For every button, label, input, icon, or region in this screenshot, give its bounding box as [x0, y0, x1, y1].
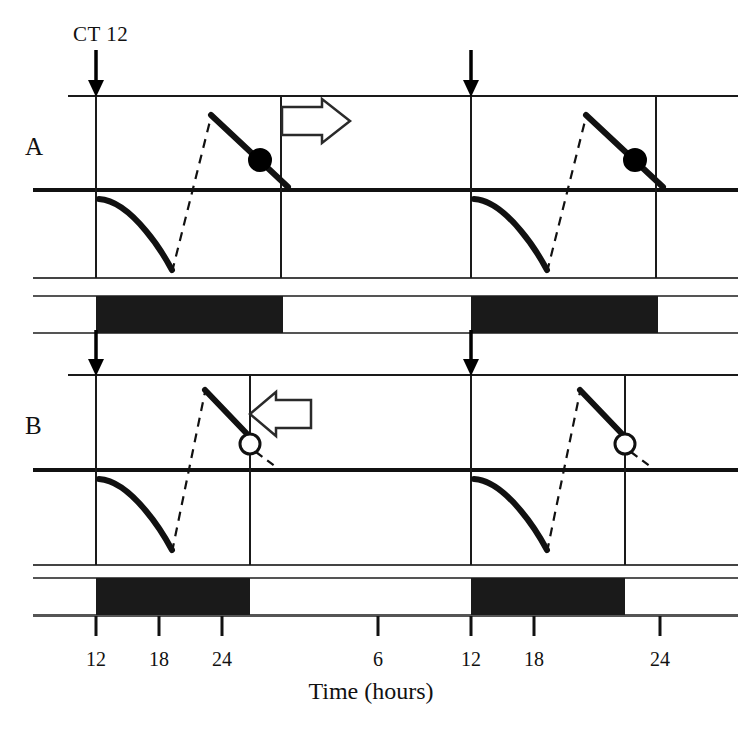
phase-advance-arrow-icon	[250, 392, 311, 436]
panel-a-rise-dashed-1	[172, 117, 211, 272]
pulse-arrow-a1	[88, 50, 104, 97]
pulse-arrow-b2	[463, 330, 479, 376]
panel-b-phase-marker-1	[240, 434, 260, 454]
panel-a-dark-span-2	[471, 296, 658, 333]
panel-a-phase-marker-2	[624, 149, 646, 171]
panel-b-fall-dashed-2	[631, 452, 655, 470]
phase-delay-arrow-icon	[282, 99, 350, 143]
x-axis-ticks	[96, 616, 660, 636]
panel-a-light-dark-bar	[33, 296, 738, 333]
x-axis	[33, 616, 738, 636]
circadian-phase-shift-figure: CT 12 A B 12 18 24 6 12 18 24 Time (hour…	[0, 0, 743, 735]
panel-a-group	[33, 50, 738, 333]
panel-b-dark-span-2	[471, 578, 625, 615]
x-tick-label-12b: 12	[461, 648, 481, 671]
panel-b-phase-marker-2	[615, 434, 635, 454]
panel-b-fall-line-1	[205, 390, 250, 437]
panel-label-b: B	[25, 412, 42, 440]
panel-a-decay-curve-2	[474, 199, 547, 270]
panel-b-decay-curve-1	[99, 479, 172, 550]
panel-label-a: A	[25, 133, 43, 161]
panel-a-rise-dashed-2	[547, 117, 586, 272]
panel-a-dark-span-1	[96, 296, 283, 333]
panel-b-fall-dashed-1	[256, 452, 280, 470]
panel-a-phase-marker-1	[249, 149, 271, 171]
x-tick-label-6: 6	[373, 648, 383, 671]
pulse-arrow-b1	[88, 330, 104, 376]
panel-b-dark-span-1	[96, 578, 250, 615]
panel-a-decay-curve-1	[99, 199, 172, 270]
x-tick-label-24a: 24	[212, 648, 232, 671]
panel-b-decay-curve-2	[474, 479, 547, 550]
pulse-arrow-a2	[463, 50, 479, 97]
x-tick-label-18a: 18	[149, 648, 169, 671]
panel-b-light-dark-bar	[33, 578, 738, 615]
x-tick-label-24b: 24	[650, 648, 670, 671]
panel-b-group	[33, 330, 738, 615]
x-tick-label-18b: 18	[524, 648, 544, 671]
figure-canvas	[0, 0, 743, 735]
panel-a-fall-line-2	[586, 115, 663, 187]
panel-b-fall-line-2	[580, 390, 625, 437]
panel-a-fall-line-1	[211, 115, 288, 187]
x-tick-label-12a: 12	[86, 648, 106, 671]
ct12-pulse-label: CT 12	[73, 22, 128, 47]
x-axis-title: Time (hours)	[308, 678, 433, 705]
